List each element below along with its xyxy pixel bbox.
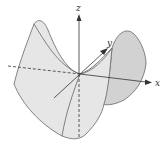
- z-axis-arrow-icon: [77, 14, 82, 21]
- x-axis-arrow-icon: [145, 80, 152, 86]
- x-axis-label: x: [155, 78, 160, 88]
- surface-front: [14, 21, 112, 139]
- y-axis-label: y: [106, 38, 113, 48]
- z-axis-label: z: [75, 3, 81, 13]
- saddle-surface-diagram: z y x: [0, 0, 165, 147]
